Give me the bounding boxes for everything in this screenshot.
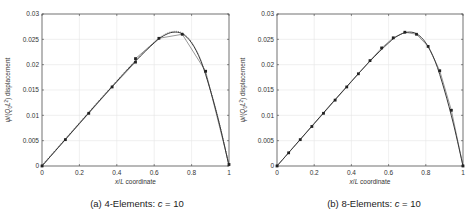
x-tick-label: 1 — [227, 169, 231, 176]
fe-node-marker — [181, 33, 184, 36]
exact-solution-curve — [277, 32, 463, 166]
y-tick-label: 0.02 — [261, 61, 274, 68]
fe-node-marker — [334, 99, 337, 102]
fe-node-marker — [111, 86, 114, 89]
fe-solution-curve — [42, 31, 229, 165]
y-tick-label: 0.02 — [26, 61, 39, 68]
fe-node-marker — [276, 165, 279, 168]
grid — [42, 14, 229, 166]
fe-node-marker — [427, 45, 430, 48]
fe-node-marker — [64, 138, 67, 141]
x-tick-label: 0.2 — [75, 169, 84, 176]
x-tick-label: 0.8 — [421, 169, 430, 176]
subplot-b: 00.20.40.60.8100.0050.010.0150.020.0250.… — [239, 10, 466, 209]
x-axis-label: x/L coordinate — [349, 178, 391, 185]
fe-node-marker — [415, 33, 418, 36]
fe-node-marker — [380, 47, 383, 50]
fe-node-marker — [403, 31, 406, 34]
y-tick-label: 0.01 — [261, 112, 274, 119]
x-tick-label: 0.6 — [150, 169, 159, 176]
fe-node-marker — [322, 112, 325, 115]
fe-node-marker — [450, 109, 453, 112]
fe-node-marker — [134, 57, 137, 60]
fe-node-marker — [357, 72, 360, 75]
x-tick-label: 0.4 — [112, 169, 121, 176]
fe-node-marker — [134, 61, 137, 64]
x-axis-label: x/L coordinate — [114, 178, 156, 185]
fe-node-marker — [392, 36, 395, 39]
y-axis-label: ψ/(Q0L2) displacement — [4, 57, 13, 122]
y-tick-label: 0 — [35, 162, 39, 169]
y-tick-label: 0 — [270, 162, 274, 169]
y-tick-label: 0.03 — [26, 10, 39, 17]
y-tick-label: 0.005 — [258, 137, 275, 144]
x-tick-label: 0 — [275, 169, 279, 176]
fe-node-marker — [345, 86, 348, 89]
y-tick-label: 0.01 — [26, 112, 39, 119]
x-tick-label: 0.2 — [310, 169, 319, 176]
exact-solution-curve — [42, 32, 229, 166]
subplot-caption: (a) 4-Elements: c = 10 — [90, 198, 184, 209]
x-tick-label: 0.6 — [384, 169, 393, 176]
fe-node-marker — [287, 151, 290, 154]
subplot-a: 00.20.40.60.8100.0050.010.0150.020.0250.… — [4, 10, 232, 209]
fe-node-marker — [204, 70, 207, 73]
x-tick-label: 0 — [40, 169, 44, 176]
grid — [277, 14, 463, 166]
fe-node-marker — [87, 112, 90, 115]
fe-node-marker — [462, 165, 465, 168]
fe-node-marker — [310, 125, 313, 128]
fe-node-polyline — [277, 32, 463, 166]
y-tick-label: 0.03 — [261, 10, 274, 17]
y-tick-label: 0.015 — [23, 86, 40, 93]
figure: 00.20.40.60.8100.0050.010.0150.020.0250.… — [0, 0, 475, 214]
y-axis-label: ψ/(Q0L2) displacement — [239, 57, 248, 122]
x-tick-label: 0.8 — [187, 169, 196, 176]
fe-node-marker — [369, 59, 372, 62]
subplot-caption: (b) 8-Elements: c = 10 — [327, 198, 421, 209]
y-tick-label: 0.015 — [258, 86, 275, 93]
fe-node-marker — [41, 165, 44, 168]
fe-node-marker — [299, 138, 302, 141]
x-tick-label: 1 — [461, 169, 465, 176]
y-tick-label: 0.025 — [258, 36, 275, 43]
fe-node-marker — [228, 163, 231, 166]
fe-node-marker — [438, 69, 441, 72]
x-tick-label: 0.4 — [347, 169, 356, 176]
y-tick-label: 0.005 — [23, 137, 40, 144]
y-tick-label: 0.025 — [23, 36, 40, 43]
fe-node-polyline — [42, 34, 229, 166]
fe-node-marker — [157, 37, 160, 40]
